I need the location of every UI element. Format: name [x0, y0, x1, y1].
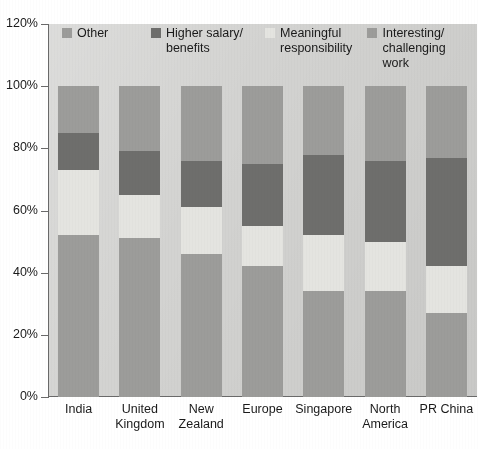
bar-segment[interactable] [365, 161, 406, 242]
bar-segment[interactable] [119, 86, 160, 151]
bar-group[interactable] [426, 24, 467, 397]
bar-segment[interactable] [181, 86, 222, 161]
bar-series-container [48, 24, 477, 397]
bar-segment[interactable] [58, 86, 99, 133]
bar-group[interactable] [58, 24, 99, 397]
bar-segment[interactable] [426, 158, 467, 267]
bar-segment[interactable] [365, 86, 406, 161]
x-axis-labels: IndiaUnited KingdomNew ZealandEuropeSing… [48, 399, 477, 445]
y-axis-tick-label: 80% [0, 141, 38, 154]
bar-segment[interactable] [242, 86, 283, 164]
bar-segment[interactable] [303, 155, 344, 236]
bar-segment[interactable] [426, 266, 467, 313]
bar-segment[interactable] [242, 226, 283, 266]
bar-group[interactable] [242, 24, 283, 397]
bar-segment[interactable] [303, 86, 344, 154]
y-axis-tick-label: 20% [0, 328, 38, 341]
y-axis-tick [41, 397, 49, 398]
y-axis-tick-label: 0% [0, 390, 38, 403]
bar-segment[interactable] [181, 254, 222, 397]
bar-segment[interactable] [58, 235, 99, 397]
stacked-bar-chart: 0%20%40%60%80%100%120% Other Higher sala… [0, 0, 480, 449]
bar-group[interactable] [365, 24, 406, 397]
bar-group[interactable] [119, 24, 160, 397]
x-axis-label: Singapore [293, 402, 354, 417]
bar-segment[interactable] [426, 313, 467, 397]
bar-segment[interactable] [119, 195, 160, 239]
x-axis-label: India [48, 402, 109, 417]
bar-segment[interactable] [119, 238, 160, 397]
x-axis-label: New Zealand [171, 402, 232, 432]
y-axis-tick-label: 40% [0, 266, 38, 279]
bar-segment[interactable] [365, 242, 406, 292]
bar-segment[interactable] [181, 161, 222, 208]
bar-segment[interactable] [58, 170, 99, 235]
bar-segment[interactable] [181, 207, 222, 254]
bar-segment[interactable] [242, 164, 283, 226]
bar-segment[interactable] [303, 235, 344, 291]
x-axis-label: North America [354, 402, 415, 432]
bar-segment[interactable] [426, 86, 467, 157]
x-axis-label: Europe [232, 402, 293, 417]
bar-segment[interactable] [303, 291, 344, 397]
x-axis-label: United Kingdom [109, 402, 170, 432]
y-axis-tick-label: 60% [0, 204, 38, 217]
y-axis-tick-label: 100% [0, 79, 38, 92]
bar-group[interactable] [181, 24, 222, 397]
x-axis-label: PR China [416, 402, 477, 417]
bar-segment[interactable] [242, 266, 283, 397]
bar-segment[interactable] [58, 133, 99, 170]
bar-segment[interactable] [119, 151, 160, 195]
bar-group[interactable] [303, 24, 344, 397]
y-axis-tick-label: 120% [0, 17, 38, 30]
bar-segment[interactable] [365, 291, 406, 397]
